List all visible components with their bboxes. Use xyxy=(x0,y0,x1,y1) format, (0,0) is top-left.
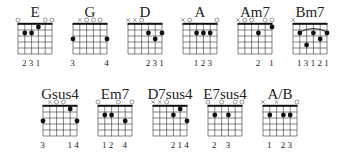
open-string-icon xyxy=(233,100,237,104)
muted-string-icon xyxy=(133,18,136,21)
open-string-icon xyxy=(91,18,95,22)
muted-string-icon xyxy=(151,100,154,103)
open-string-icon xyxy=(215,18,219,22)
chord-name: D xyxy=(118,5,172,20)
finger-number: 3 xyxy=(69,59,77,68)
chord-name: Bm7 xyxy=(283,5,337,20)
open-string-icon xyxy=(263,18,267,22)
fretboard-grid xyxy=(257,101,305,141)
nut xyxy=(43,105,78,107)
nut xyxy=(18,23,53,25)
open-string-icon xyxy=(243,18,247,22)
chord-name: A xyxy=(173,5,227,20)
finger-number: 1 xyxy=(323,59,331,68)
open-string-icon xyxy=(50,18,54,22)
finger-dot xyxy=(281,113,286,118)
fretboard-grid xyxy=(232,19,280,59)
finger-dot xyxy=(71,37,76,42)
finger-dot xyxy=(153,37,158,42)
chord-name: E7sus4 xyxy=(198,87,252,102)
muted-string-icon xyxy=(78,18,81,21)
finger-dot xyxy=(288,113,293,118)
finger-number: 4 xyxy=(183,141,191,150)
finger-dot xyxy=(325,31,330,36)
finger-dot xyxy=(318,37,323,42)
open-string-icon xyxy=(206,100,210,104)
finger-dot xyxy=(297,31,302,36)
finger-dot xyxy=(185,119,190,124)
finger-dot xyxy=(267,113,272,118)
fretboard-grid xyxy=(92,101,140,141)
finger-number: 1 xyxy=(268,59,276,68)
fretboard-grid xyxy=(287,19,335,59)
finger-dot xyxy=(75,119,80,124)
fretboard-grid xyxy=(67,19,115,59)
open-string-icon xyxy=(295,100,299,104)
chord-name: A/B xyxy=(253,87,307,102)
finger-dot xyxy=(270,25,275,30)
open-string-icon xyxy=(116,100,120,104)
finger-dot xyxy=(256,31,261,36)
open-string-icon xyxy=(85,18,89,22)
nut xyxy=(208,105,243,107)
finger-dot xyxy=(123,119,128,124)
finger-dot xyxy=(105,37,110,42)
finger-dot xyxy=(102,113,107,118)
open-string-icon xyxy=(96,100,100,104)
muted-string-icon xyxy=(275,100,278,103)
finger-number: 3 xyxy=(39,141,47,150)
open-string-icon xyxy=(220,100,224,104)
finger-number: 3 xyxy=(224,141,232,150)
finger-dot xyxy=(68,107,73,112)
finger-dot xyxy=(208,31,213,36)
muted-string-icon xyxy=(48,100,51,103)
open-string-icon xyxy=(61,100,65,104)
finger-number: 3 xyxy=(206,59,214,68)
finger-dot xyxy=(226,113,231,118)
finger-dot xyxy=(178,107,183,112)
open-string-icon xyxy=(188,18,192,22)
finger-dot xyxy=(41,119,46,124)
muted-string-icon xyxy=(126,18,129,21)
fretboard-grid xyxy=(12,19,60,59)
finger-dot xyxy=(194,31,199,36)
muted-string-icon xyxy=(261,100,264,103)
finger-dot xyxy=(109,113,114,118)
fretboard-grid xyxy=(177,19,225,59)
finger-number: 2 xyxy=(107,141,115,150)
finger-dot xyxy=(29,31,34,36)
finger-number: 2 xyxy=(210,141,218,150)
finger-dot xyxy=(146,31,151,36)
finger-dot xyxy=(212,113,217,118)
finger-number: 4 xyxy=(103,59,111,68)
open-string-icon xyxy=(140,18,144,22)
nut xyxy=(128,23,163,25)
muted-string-icon xyxy=(158,100,161,103)
fretboard-grid xyxy=(37,101,85,141)
finger-dot xyxy=(171,113,176,118)
finger-number: 3 xyxy=(286,141,294,150)
nut xyxy=(98,105,133,107)
open-string-icon xyxy=(98,18,102,22)
open-string-icon xyxy=(130,100,134,104)
nut xyxy=(293,23,328,25)
chord-name: Em7 xyxy=(88,87,142,102)
finger-number: 2 xyxy=(254,59,262,68)
fretboard-grid xyxy=(202,101,250,141)
nut xyxy=(73,23,108,25)
muted-string-icon xyxy=(291,18,294,21)
open-string-icon xyxy=(250,18,254,22)
finger-dot xyxy=(22,31,27,36)
finger-dot xyxy=(304,43,309,48)
chord-name: E xyxy=(8,5,62,20)
finger-number: 4 xyxy=(73,141,81,150)
open-string-icon xyxy=(55,100,59,104)
chord-name: Gsus4 xyxy=(33,87,87,102)
chord-name: Am7 xyxy=(228,5,282,20)
finger-number: 1 xyxy=(34,59,42,68)
open-string-icon xyxy=(240,100,244,104)
nut xyxy=(183,23,218,25)
finger-number: 1 xyxy=(158,59,166,68)
nut xyxy=(153,105,188,107)
finger-dot xyxy=(201,31,206,36)
